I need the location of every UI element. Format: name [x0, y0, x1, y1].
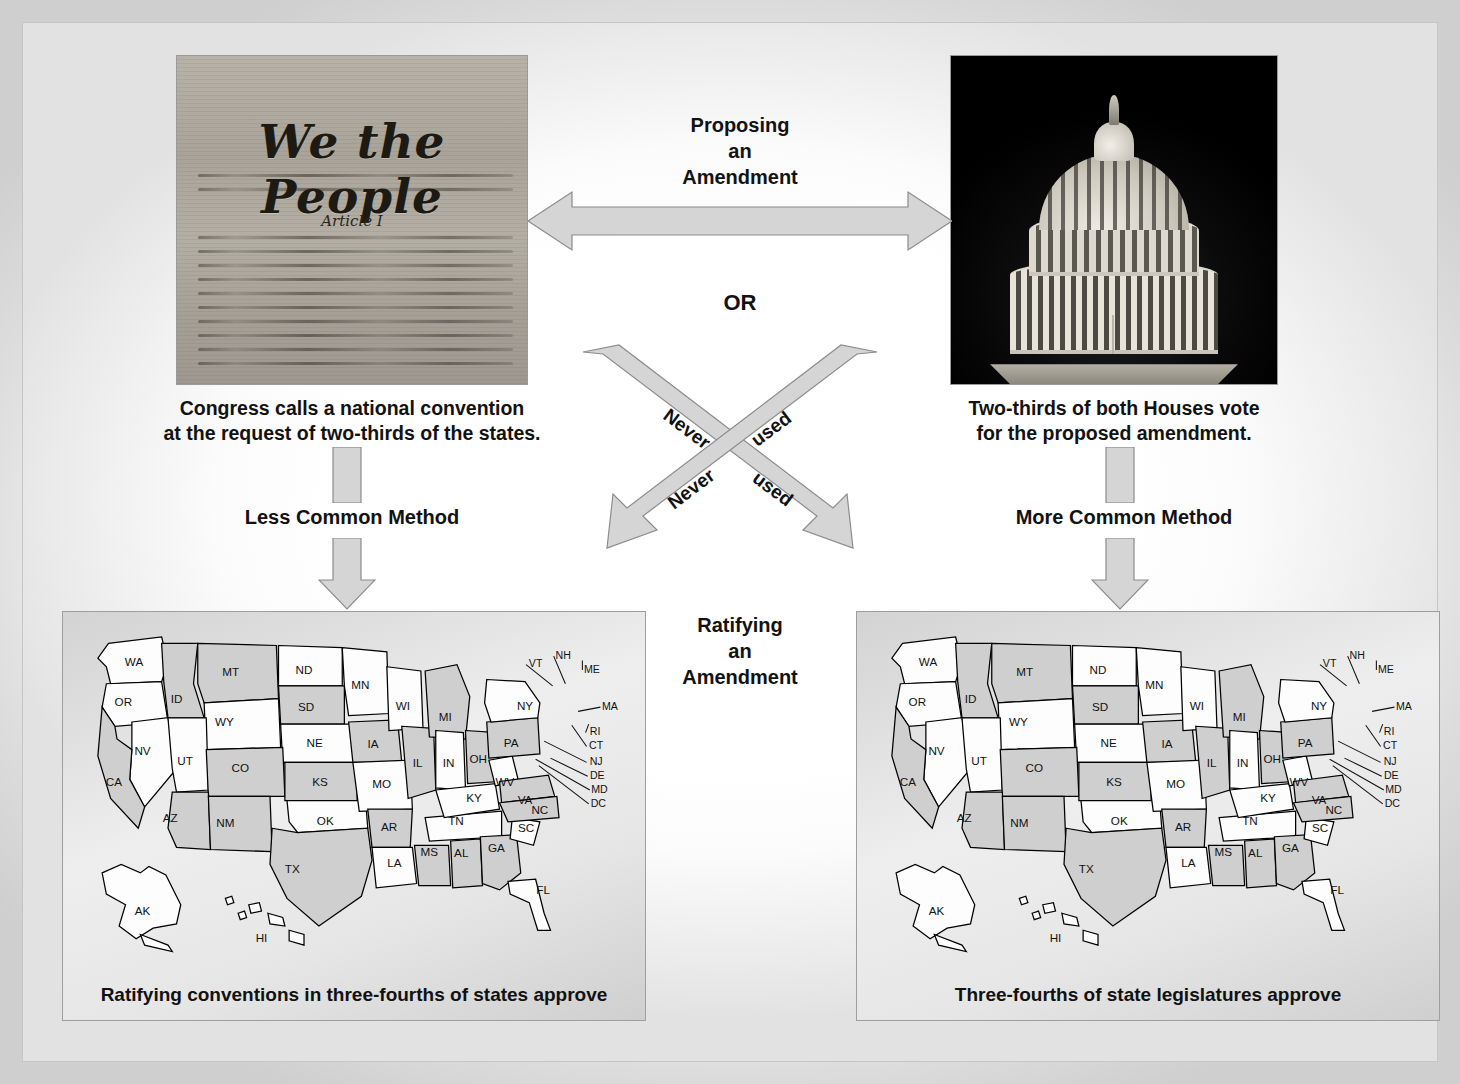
capitol-flagpole [1112, 315, 1114, 354]
state-label-ar: AR [381, 820, 397, 833]
island-shape-3 [1083, 930, 1098, 945]
state-label-ks: KS [312, 775, 328, 788]
state-label-tn: TN [448, 814, 464, 827]
state-label-ct: CT [589, 739, 604, 751]
leader-line-de [1345, 758, 1382, 776]
state-label-mn: MN [351, 678, 369, 691]
state-label-nm: NM [216, 816, 234, 829]
proposing-title-line-2: an [620, 138, 860, 164]
state-label-nv: NV [928, 744, 944, 757]
proposing-double-arrow [528, 190, 952, 252]
state-shape-hi [1032, 911, 1041, 920]
state-label-id: ID [171, 692, 183, 705]
state-label-sd: SD [1092, 700, 1108, 713]
state-label-sd: SD [298, 700, 314, 713]
less-common-method-label: Less Common Method [172, 505, 532, 530]
state-label-ut: UT [177, 754, 193, 767]
state-label-al: AL [454, 846, 469, 859]
state-label-fl: FL [536, 883, 550, 896]
state-shape-mi [425, 665, 470, 739]
leader-line-ct [572, 725, 587, 746]
state-label-az: AZ [957, 811, 972, 824]
right-vertical-arrow-lower [1091, 538, 1149, 610]
state-label-vt: VT [1323, 657, 1337, 669]
statue-of-freedom [1109, 95, 1119, 125]
state-label-nd: ND [296, 663, 313, 676]
capitol-photo [950, 55, 1278, 385]
state-label-mo: MO [1166, 777, 1185, 790]
island-shape-1 [249, 903, 262, 914]
state-label-me: ME [584, 663, 600, 675]
state-shape-mi [1219, 665, 1264, 739]
state-label-ne: NE [1101, 736, 1117, 749]
left-vertical-arrow-lower [318, 538, 376, 610]
state-label-ok: OK [1111, 814, 1128, 827]
state-label-nc: NC [531, 803, 548, 816]
state-label-mn: MN [1145, 678, 1163, 691]
state-label-al: AL [1248, 846, 1263, 859]
leader-line-ma [578, 707, 600, 711]
left-vertical-arrow-upper [327, 447, 367, 503]
state-label-mi: MI [1233, 710, 1246, 723]
state-label-hi: HI [1050, 931, 1062, 944]
state-label-de: DE [590, 769, 605, 781]
state-label-ok: OK [317, 814, 334, 827]
leader-line-de [551, 758, 588, 776]
state-label-la: LA [387, 856, 401, 869]
state-label-sc: SC [1312, 821, 1328, 834]
state-label-va: VA [1312, 793, 1327, 806]
state-label-az: AZ [163, 811, 178, 824]
proposing-title-line-1: Proposing [620, 112, 860, 138]
state-label-nj: NJ [590, 755, 603, 767]
map-panel-ratifying-conventions: WAORIDMTNDSDNEWYNVUTCOKSCAAZNMOKTXMNIAMO… [62, 611, 646, 1021]
proposing-title-line-3: Amendment [620, 164, 860, 190]
state-label-md: MD [1385, 783, 1402, 795]
state-label-id: ID [965, 692, 977, 705]
state-label-ia: IA [368, 737, 379, 750]
state-label-nc: NC [1325, 803, 1342, 816]
left-map-caption: Ratifying conventions in three-fourths o… [63, 984, 645, 1006]
state-label-tn: TN [1242, 814, 1258, 827]
us-map-left: WAORIDMTNDSDNEWYNVUTCOKSCAAZNMOKTXMNIAMO… [77, 620, 633, 960]
state-label-de: DE [1384, 769, 1399, 781]
state-label-ne: NE [307, 736, 323, 749]
never-used-cross-arrows: Never used Never used [575, 342, 885, 572]
state-label-tx: TX [1079, 862, 1094, 875]
island-shape-2 [1062, 913, 1079, 926]
state-label-co: CO [1025, 761, 1043, 774]
state-label-wv: WV [495, 775, 514, 788]
right-vertical-arrow-upper [1100, 447, 1140, 503]
constitution-photo: We the People Article I [176, 55, 528, 385]
us-map-right: WAORIDMTNDSDNEWYNVUTCOKSCAAZNMOKTXMNIAMO… [871, 620, 1427, 960]
island-shape-4 [934, 935, 966, 952]
state-label-in: IN [1237, 756, 1249, 769]
state-shape-ak [102, 864, 181, 938]
capitol-lantern [1094, 122, 1133, 161]
state-label-il: IL [413, 756, 423, 769]
island-shape-4 [140, 935, 172, 952]
state-label-ut: UT [971, 754, 987, 767]
state-label-ms: MS [1215, 845, 1233, 858]
state-label-co: CO [231, 761, 249, 774]
state-label-ny: NY [517, 699, 533, 712]
diagram-canvas: We the People Article I Proposing an Ame… [0, 0, 1460, 1084]
state-label-pa: PA [504, 736, 519, 749]
state-label-vt: VT [529, 657, 543, 669]
state-label-ct: CT [1383, 739, 1398, 751]
island-shape-0 [1019, 896, 1028, 905]
state-label-ga: GA [488, 841, 505, 854]
state-label-hi: HI [256, 931, 268, 944]
state-label-mt: MT [222, 665, 239, 678]
state-label-or: OR [909, 695, 927, 708]
map-panel-state-legislatures: WAORIDMTNDSDNEWYNVUTCOKSCAAZNMOKTXMNIAMO… [856, 611, 1440, 1021]
state-label-mi: MI [439, 710, 452, 723]
state-label-mt: MT [1016, 665, 1033, 678]
state-label-nh: NH [1350, 649, 1365, 661]
state-label-nv: NV [134, 744, 150, 757]
ratifying-title-line-2: an [620, 638, 860, 664]
ratifying-title-line-3: Amendment [620, 664, 860, 690]
state-label-md: MD [591, 783, 608, 795]
state-label-ma: MA [602, 700, 619, 712]
state-label-wa: WA [125, 655, 144, 668]
state-label-ga: GA [1282, 841, 1299, 854]
